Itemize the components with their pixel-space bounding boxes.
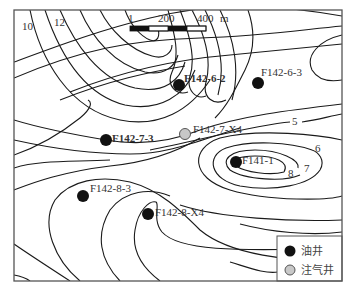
- contour-label-10: 10: [22, 20, 34, 32]
- well-F142-7-3[interactable]: F142-7-3: [100, 132, 154, 146]
- contour-map: 1 200 400 m 10 12 5 6 7 8 F142-6-2 F142-…: [0, 0, 352, 294]
- oil-well-icon: [230, 156, 242, 168]
- oil-well-icon: [77, 190, 89, 202]
- scale-label-400: 400: [197, 12, 214, 24]
- well-F142-6-3[interactable]: F142-6-3: [252, 66, 302, 89]
- contour-label-5: 5: [292, 115, 298, 127]
- well-label: F141-1: [242, 154, 274, 166]
- well-F142-8-X4[interactable]: F142-8-X4: [142, 206, 204, 220]
- gas-injection-well-icon: [180, 129, 191, 140]
- well-label: F142-6-2: [184, 72, 226, 84]
- well-label: F142-6-3: [261, 66, 302, 78]
- well-F141-1[interactable]: F141-1: [230, 154, 274, 168]
- oil-well-icon: [100, 134, 112, 146]
- contour-label-7: 7: [304, 162, 310, 174]
- well-label: F142-7-3: [112, 132, 154, 144]
- scale-label-start: 1: [128, 12, 134, 24]
- legend-label: 油井: [301, 244, 323, 258]
- contour-label-8: 8: [288, 167, 294, 179]
- oil-well-icon: [252, 77, 264, 89]
- contour-label-12: 12: [54, 16, 65, 28]
- well-label: F142-7-X4: [193, 123, 242, 135]
- oil-well-icon: [142, 208, 154, 220]
- legend-label: 注气井: [301, 263, 334, 277]
- legend: 油井 注气井: [277, 236, 342, 281]
- well-label: F142-8-X4: [155, 206, 204, 218]
- well-label: F142-8-3: [90, 182, 131, 194]
- well-F142-6-2[interactable]: F142-6-2: [173, 72, 226, 91]
- oil-well-icon: [285, 246, 296, 257]
- legend-item-oil-well: 油井: [285, 244, 324, 258]
- contour-label-6: 6: [315, 142, 321, 154]
- scale-label-200: 200: [158, 12, 175, 24]
- well-F142-8-3[interactable]: F142-8-3: [77, 182, 131, 202]
- gas-injection-well-icon: [285, 265, 295, 275]
- scale-label-unit: m: [220, 12, 229, 24]
- scale-bar: 1 200 400 m: [128, 12, 229, 31]
- legend-item-gas-injection-well: 注气井: [285, 263, 334, 277]
